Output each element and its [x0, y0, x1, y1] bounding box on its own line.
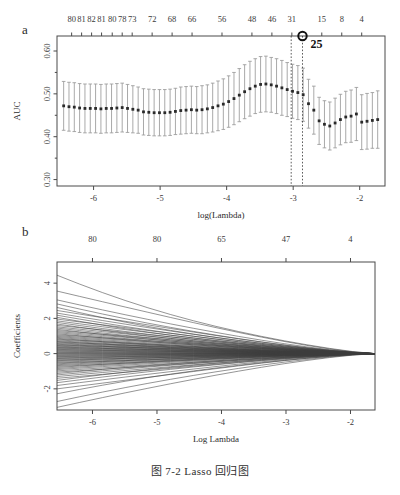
svg-text:-6: -6 — [90, 193, 97, 203]
svg-text:66: 66 — [188, 14, 197, 24]
svg-text:15: 15 — [318, 14, 327, 24]
svg-text:72: 72 — [148, 14, 157, 24]
svg-text:47: 47 — [282, 234, 291, 244]
svg-text:-2: -2 — [347, 417, 354, 427]
svg-text:80: 80 — [67, 14, 76, 24]
svg-text:0: 0 — [42, 351, 52, 355]
svg-text:80: 80 — [153, 234, 162, 244]
svg-text:Log Lambda: Log Lambda — [193, 434, 239, 444]
svg-text:log(Lambda): log(Lambda) — [198, 210, 245, 220]
panel-b-plot-area: -2024-6-5-4-3-2Log LambdaCoefficients — [12, 262, 375, 444]
svg-text:2: 2 — [42, 316, 52, 320]
panel-a-cv-auc-plot: 0.300.400.500.60-6-5-4-3-2log(Lambda)AUC… — [0, 0, 400, 225]
panel-a-data-points — [62, 83, 379, 128]
svg-text:4: 4 — [348, 234, 353, 244]
svg-text:65: 65 — [217, 234, 226, 244]
svg-text:-3: -3 — [282, 417, 289, 427]
svg-text:-6: -6 — [89, 417, 96, 427]
panel-b-coefficient-paths — [57, 275, 375, 407]
svg-text:0.40: 0.40 — [42, 129, 52, 144]
svg-text:-2: -2 — [356, 193, 363, 203]
panel-a-error-bars — [62, 56, 380, 150]
svg-text:81: 81 — [97, 14, 106, 24]
svg-text:25: 25 — [311, 37, 323, 51]
svg-text:31: 31 — [288, 14, 297, 24]
panel-a-plot-area: 0.300.400.500.60-6-5-4-3-2log(Lambda)AUC — [12, 36, 385, 220]
svg-text:56: 56 — [218, 14, 227, 24]
panel-a-top-axis: 80818281807873726866564846311584 — [67, 14, 364, 36]
svg-text:Coefficients: Coefficients — [12, 314, 22, 358]
svg-text:-5: -5 — [153, 417, 160, 427]
panel-a-selected-lambda-marker: 25 — [298, 32, 322, 51]
svg-text:4: 4 — [42, 280, 52, 285]
svg-text:8: 8 — [340, 14, 344, 24]
svg-text:-4: -4 — [218, 417, 226, 427]
svg-text:80: 80 — [108, 14, 117, 24]
svg-text:AUC: AUC — [12, 101, 22, 120]
svg-text:80: 80 — [88, 234, 97, 244]
svg-text:0.60: 0.60 — [42, 44, 52, 59]
svg-text:73: 73 — [128, 14, 137, 24]
lasso-figure: a b 0.300.400.500.60-6-5-4-3-2log(Lambda… — [0, 0, 400, 495]
figure-caption: 图 7-2 Lasso 回归图 — [0, 462, 400, 478]
svg-text:-2: -2 — [42, 385, 52, 392]
svg-text:82: 82 — [87, 14, 96, 24]
svg-text:0.50: 0.50 — [42, 86, 52, 101]
svg-text:81: 81 — [77, 14, 86, 24]
svg-text:4: 4 — [360, 14, 365, 24]
svg-text:0.30: 0.30 — [42, 172, 52, 187]
svg-text:-3: -3 — [290, 193, 297, 203]
svg-text:46: 46 — [268, 14, 277, 24]
svg-text:-4: -4 — [223, 193, 231, 203]
panel-b-top-axis: 808065474 — [88, 234, 353, 262]
svg-text:48: 48 — [248, 14, 257, 24]
panel-b-coefficient-path-plot: -2024-6-5-4-3-2Log LambdaCoefficients808… — [0, 228, 400, 458]
svg-text:78: 78 — [118, 14, 127, 24]
svg-text:68: 68 — [168, 14, 177, 24]
svg-text:-5: -5 — [157, 193, 164, 203]
